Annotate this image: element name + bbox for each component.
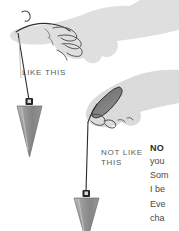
label-not-like-this: NOT LIKE THIS xyxy=(101,148,143,168)
closed-fist-group xyxy=(86,70,179,128)
note-heading: NO xyxy=(150,143,179,154)
pendulum-cap-highlight-incorrect xyxy=(85,192,89,196)
open-hand-group xyxy=(10,0,179,63)
pendulum-cap-highlight-correct xyxy=(28,100,32,104)
pendulum-incorrect-group xyxy=(74,122,99,231)
pendulum-cone-correct xyxy=(17,106,42,157)
label-like-this: LIKE THIS xyxy=(22,68,66,78)
pendulum-correct-group xyxy=(17,33,42,157)
note-line: you xyxy=(150,154,179,168)
note-line: Eve xyxy=(150,197,179,211)
note-line: cha xyxy=(150,211,179,225)
note-line: Som xyxy=(150,168,179,182)
illustration-canvas: LIKE THIS NOT LIKE THIS NO you Som I be … xyxy=(0,0,179,231)
open-hand-shape xyxy=(10,0,179,63)
cord-incorrect xyxy=(86,122,88,192)
thumb-nub xyxy=(22,11,30,21)
note-line: I be xyxy=(150,182,179,196)
note-text-column: NO you Som I be Eve cha xyxy=(150,143,179,225)
pendulum-cone-incorrect xyxy=(74,198,99,231)
